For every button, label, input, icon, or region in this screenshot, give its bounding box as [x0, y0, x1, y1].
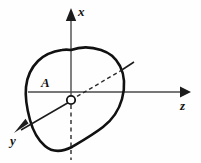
inclined-axis-solid-segment: [121, 62, 134, 71]
y-axis-label: y: [8, 133, 16, 148]
z-axis-arrowhead: [180, 87, 191, 98]
diagram-canvas: x z y A: [0, 0, 201, 163]
region-label-a: A: [40, 75, 50, 90]
inclined-axis-dashed-segment: [71, 70, 122, 100]
z-axis: [28, 87, 191, 98]
y-axis-arrowhead: [14, 119, 29, 133]
x-axis-arrowhead: [66, 8, 76, 21]
origin-marker-circle: [67, 96, 75, 104]
x-axis: [66, 8, 76, 103]
y-axis: [14, 101, 71, 133]
cross-section-axes-diagram: x z y A: [0, 0, 201, 163]
z-axis-label: z: [179, 98, 186, 113]
x-axis-label: x: [77, 4, 85, 19]
